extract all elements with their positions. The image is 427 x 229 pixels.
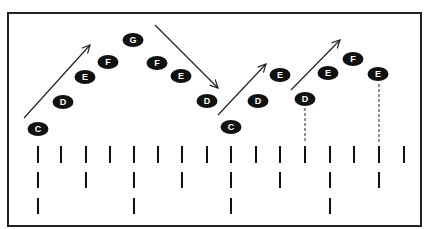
diagram-frame: [8, 13, 421, 226]
note-e-11: E: [270, 68, 291, 82]
note-label: E: [82, 72, 88, 82]
note-d-8: D: [197, 94, 218, 108]
note-d-10: D: [248, 94, 269, 108]
note-label: D: [302, 94, 309, 104]
beat-row-3: [38, 198, 330, 214]
note-label: F: [154, 58, 160, 68]
note-label: E: [178, 71, 184, 81]
note-sequence: CDEFGFEDCDEDEFE: [28, 33, 389, 136]
beat-row-2: [38, 172, 379, 188]
beat-row-1: [38, 146, 404, 163]
note-label: E: [277, 70, 283, 80]
note-label: D: [204, 96, 211, 106]
note-e-13: E: [318, 66, 339, 80]
note-label: D: [60, 97, 67, 107]
note-d-2: D: [53, 95, 74, 109]
note-e-3: E: [75, 70, 96, 84]
note-label: C: [35, 124, 42, 134]
note-label: E: [375, 69, 381, 79]
beat-tick-rows: [38, 146, 404, 214]
note-label: C: [228, 122, 235, 132]
note-c-1: C: [28, 122, 49, 136]
alignment-dashed-lines: [305, 84, 379, 143]
note-f-4: F: [98, 55, 119, 69]
note-label: G: [129, 35, 136, 45]
ascending-arrow-3: [291, 40, 340, 90]
note-e-7: E: [171, 69, 192, 83]
note-label: D: [255, 96, 262, 106]
note-c-9: C: [221, 120, 242, 134]
note-d-12: D: [295, 92, 316, 106]
note-f-14: F: [343, 52, 364, 66]
note-f-6: F: [147, 56, 168, 70]
note-label: F: [105, 57, 111, 67]
note-label: E: [325, 68, 331, 78]
note-label: F: [350, 54, 356, 64]
note-e-15: E: [368, 67, 389, 81]
note-g-5: G: [123, 33, 144, 47]
melody-diagram: CDEFGFEDCDEDEFE: [0, 0, 427, 229]
